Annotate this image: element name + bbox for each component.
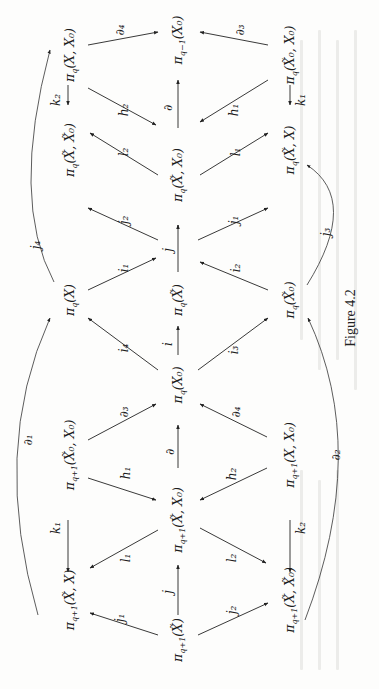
svg-text:h₂: h₂ xyxy=(117,104,131,117)
node-pq1-XtX: πq+1(X̃, X) xyxy=(62,570,79,632)
svg-text:πq+1(X̃, X̃₀): πq+1(X̃, X̃₀) xyxy=(282,567,299,634)
svg-text:i₁: i₁ xyxy=(117,264,131,273)
node-pq1-XtXt0: πq+1(X̃, X̃₀) xyxy=(282,567,299,634)
node-pq-XtX: πq(X̃, X) xyxy=(282,125,299,175)
node-pq1-XtX0: πq+1(X̃, X₀) xyxy=(170,487,187,554)
svg-text:πq+1(X̃, X₀): πq+1(X̃, X₀) xyxy=(170,487,187,554)
svg-text:πq+1(X̃, X): πq+1(X̃, X) xyxy=(62,570,79,632)
svg-text:πq+1(X, X₀): πq+1(X, X₀) xyxy=(282,422,299,489)
svg-text:j: j xyxy=(161,248,175,255)
node-pq-Xt: πq(X̃) xyxy=(170,284,187,317)
node-pq-XX0: πq(X, X₀) xyxy=(62,28,79,83)
svg-text:πq(X̃, X): πq(X̃, X) xyxy=(282,125,299,175)
svg-text:∂₃: ∂₃ xyxy=(233,24,247,35)
svg-text:j: j xyxy=(161,590,175,597)
node-pq1-Xt0X0: πq+1(X̃₀, X₀) xyxy=(62,420,79,492)
svg-text:l₂: l₂ xyxy=(225,553,239,562)
svg-text:Figure 4.2: Figure 4.2 xyxy=(343,289,358,347)
svg-text:j₃: j₃ xyxy=(319,228,333,240)
svg-text:i: i xyxy=(161,342,175,346)
node-pq-X0: πq(X₀) xyxy=(170,366,187,404)
node-pq-Xt0: πq(X̃₀) xyxy=(282,281,299,319)
svg-text:i₂: i₂ xyxy=(229,263,243,272)
svg-text:πq(X̃₀, X₀): πq(X̃₀, X₀) xyxy=(282,25,299,85)
nodes: πq+1(X̃, X) πq+1(X̃₀, X₀) πq(X) πq(X̃, X… xyxy=(62,15,299,662)
svg-text:∂: ∂ xyxy=(163,449,177,455)
svg-text:i₃: i₃ xyxy=(227,345,241,354)
commutative-diagram: ∂₁ j₄ ∂₂ j₃ xyxy=(0,0,379,689)
svg-text:∂₂: ∂₂ xyxy=(329,449,343,460)
svg-text:l₁: l₁ xyxy=(119,554,133,563)
svg-text:h₁: h₁ xyxy=(119,467,133,480)
svg-text:πq(X̃, X₀): πq(X̃, X₀) xyxy=(170,148,187,203)
svg-text:πq(X, X₀): πq(X, X₀) xyxy=(62,28,79,83)
svg-text:l₂: l₂ xyxy=(117,147,131,156)
svg-text:l₁: l₁ xyxy=(229,148,243,157)
svg-text:k₂: k₂ xyxy=(49,94,63,106)
svg-text:πq+1(X̃₀, X₀): πq+1(X̃₀, X₀) xyxy=(62,420,79,492)
arc-j4: j₄ xyxy=(29,50,54,282)
svg-text:∂₃: ∂₃ xyxy=(117,406,131,417)
svg-text:i₄: i₄ xyxy=(117,343,131,352)
svg-text:πq(X₀): πq(X₀) xyxy=(170,366,187,404)
svg-text:πq(X): πq(X) xyxy=(62,284,79,317)
svg-text:∂₁: ∂₁ xyxy=(21,434,35,445)
arc-d2: ∂₂ xyxy=(305,318,343,620)
svg-text:πq+1(X̃): πq+1(X̃) xyxy=(170,618,187,663)
node-pq1-Xt: πq+1(X̃) xyxy=(170,618,187,663)
figure-caption: Figure 4.2 xyxy=(343,289,358,347)
node-pqm1-X0: πq−1(X₀) xyxy=(170,15,187,65)
svg-text:j₁: j₁ xyxy=(113,614,127,626)
svg-text:h₁: h₁ xyxy=(227,104,241,117)
svg-text:h₂: h₂ xyxy=(225,468,239,481)
svg-text:k₁: k₁ xyxy=(294,94,308,106)
svg-text:k₁: k₁ xyxy=(49,522,63,534)
svg-text:πq(X̃₀): πq(X̃₀) xyxy=(282,281,299,319)
svg-text:πq−1(X₀): πq−1(X₀) xyxy=(170,15,187,65)
svg-text:∂₄: ∂₄ xyxy=(229,406,243,417)
svg-text:πq(X̃): πq(X̃) xyxy=(170,284,187,317)
svg-text:j₂: j₂ xyxy=(117,216,131,228)
svg-text:πq(X̃, X̃₀): πq(X̃, X̃₀) xyxy=(62,123,79,178)
node-pq-Xt0X0: πq(X̃₀, X₀) xyxy=(282,25,299,85)
svg-text:∂: ∂ xyxy=(161,105,175,111)
node-pq-X: πq(X) xyxy=(62,284,79,317)
node-pq-XtX0: πq(X̃, X₀) xyxy=(170,148,187,203)
node-pq-XtXt0: πq(X̃, X̃₀) xyxy=(62,123,79,178)
arc-j3: j₃ xyxy=(307,165,334,285)
svg-text:k₂: k₂ xyxy=(294,522,308,534)
arc-d1: ∂₁ xyxy=(17,318,50,615)
svg-text:j₂: j₂ xyxy=(225,606,239,618)
scanned-page: ∂₁ j₄ ∂₂ j₃ xyxy=(0,0,379,689)
node-pq1-XX0: πq+1(X, X₀) xyxy=(282,422,299,489)
svg-text:∂₄: ∂₄ xyxy=(113,24,127,35)
